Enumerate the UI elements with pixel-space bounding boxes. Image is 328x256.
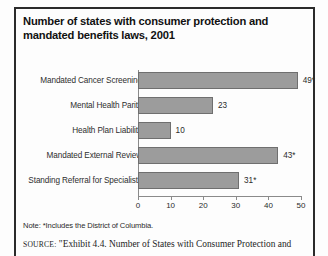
- x-axis-tick-label: 30: [231, 201, 240, 211]
- source-text: "Exhibit 4.4. Number of States with Cons…: [59, 239, 291, 249]
- bar-value-label: 10: [176, 126, 185, 136]
- x-axis-tick-label: 10: [166, 201, 175, 211]
- x-axis-tick-label: 50: [297, 201, 306, 211]
- bar-value-label: 23: [218, 101, 227, 111]
- x-axis-tick-label: 20: [199, 201, 208, 211]
- bar-category-label: Standing Referral for Specialists: [0, 176, 142, 186]
- bar: [138, 147, 278, 164]
- x-axis-line: [138, 196, 301, 197]
- bar-value-label: 43*: [283, 151, 295, 161]
- figure-container: Number of states with consumer protectio…: [0, 0, 328, 256]
- bar-category-label: Mental Health Parity: [0, 101, 142, 111]
- bar: [138, 72, 298, 89]
- bar-category-label: Mandated External Review: [0, 151, 142, 161]
- x-axis-tick: [138, 196, 139, 200]
- bar: [138, 172, 239, 189]
- bar: [138, 122, 171, 139]
- bar-value-label: 31*: [244, 176, 256, 186]
- bar: [138, 97, 213, 114]
- bar-chart-plot: Mandated Cancer Screening49*Mental Healt…: [0, 0, 328, 256]
- x-axis-tick: [268, 196, 269, 200]
- source-prefix-label: SOURCE:: [23, 240, 56, 249]
- figure-source: SOURCE: "Exhibit 4.4. Number of States w…: [23, 239, 291, 249]
- x-axis-tick: [301, 196, 302, 200]
- bar-value-label: 49*: [303, 76, 315, 86]
- x-axis-tick: [236, 196, 237, 200]
- bar-category-label: Health Plan Liability: [0, 126, 142, 136]
- bar-category-label: Mandated Cancer Screening: [0, 76, 142, 86]
- x-axis-tick: [171, 196, 172, 200]
- x-axis-tick-label: 40: [264, 201, 273, 211]
- x-axis-tick: [203, 196, 204, 200]
- x-axis-tick-label: 0: [136, 201, 140, 211]
- figure-note: Note: *Includes the District of Columbia…: [23, 221, 153, 230]
